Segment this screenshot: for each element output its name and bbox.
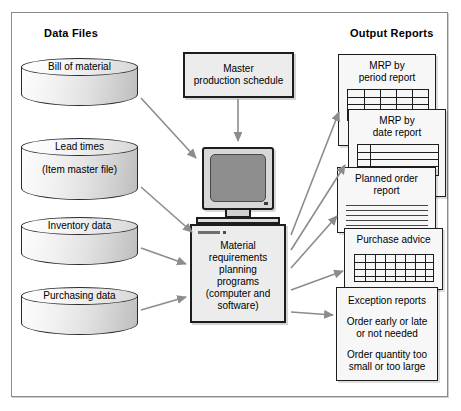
processor-line-6: software) [192, 300, 284, 312]
mrp-system-diagram: Data Files Output Reports Bill of materi… [0, 0, 461, 411]
report-purchase-advice: Purchase advice [344, 228, 443, 290]
monitor-screen [210, 154, 266, 202]
report-title-line-1: Exception reports [337, 295, 437, 307]
data-file-label: Inventory data [21, 220, 138, 231]
master-production-schedule-box: Master production schedule [183, 52, 294, 98]
processor-label: Material requirements planning programs … [192, 240, 284, 312]
report-title-line-1: MRP by [339, 60, 435, 72]
monitor-power-led-icon [264, 202, 268, 205]
report-planned-order: Planned order report [337, 167, 436, 233]
report-title-line-1: Planned order [338, 173, 435, 185]
mrp-processor-box: Material requirements planning programs … [190, 224, 286, 323]
section-header-output-reports: Output Reports [350, 27, 433, 39]
drive-light-icon [223, 231, 226, 234]
report-lines [346, 205, 428, 227]
processor-line-3: planning [192, 264, 284, 276]
exception-text-line-2: or not needed [337, 328, 437, 340]
data-file-label: Purchasing data [21, 290, 138, 301]
report-title-line-2: period report [339, 72, 435, 84]
mps-line-2: production schedule [194, 75, 284, 87]
exception-text-line-4: small or too large [337, 361, 437, 373]
floppy-drive-icon [198, 231, 220, 234]
section-header-data-files: Data Files [44, 27, 98, 39]
data-file-inventory-data: Inventory data [21, 217, 138, 265]
data-file-label: Bill of material [21, 61, 138, 72]
mps-line-1: Master [194, 63, 284, 75]
report-title-line-2: date report [349, 127, 445, 139]
processor-line-2: requirements [192, 252, 284, 264]
data-file-label: Lead times [21, 141, 138, 152]
processor-line-5: (computer and [192, 288, 284, 300]
data-file-bill-of-material: Bill of material [21, 58, 138, 106]
report-title-line-2: report [338, 185, 435, 197]
processor-line-1: Material [192, 240, 284, 252]
exception-text-line-3: Order quantity too [337, 349, 437, 361]
data-file-lead-times: Lead times (Item master file) [21, 138, 138, 200]
report-title-line-1: MRP by [349, 115, 445, 127]
computer-monitor [202, 147, 274, 210]
report-exception: Exception reports Order early or late or… [336, 287, 438, 381]
exception-text-line-1: Order early or late [337, 316, 437, 328]
data-file-purchasing-data: Purchasing data [21, 287, 138, 335]
processor-line-4: programs [192, 276, 284, 288]
report-title-line-1: Purchase advice [345, 234, 442, 246]
data-file-sublabel: (Item master file) [21, 164, 138, 175]
report-grid [354, 254, 434, 282]
monitor-base [196, 217, 280, 224]
